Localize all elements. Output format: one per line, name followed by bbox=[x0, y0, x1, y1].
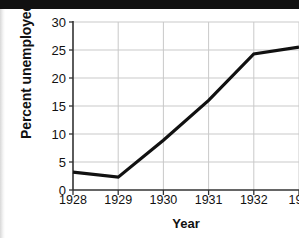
y-tick-label: 30 bbox=[38, 16, 66, 29]
x-tick-label: 193 bbox=[289, 193, 299, 207]
x-tick-label: 1931 bbox=[195, 193, 223, 207]
plot-area: 051015202530 19281929193019311932193 bbox=[0, 9, 299, 238]
y-tick-label: 20 bbox=[38, 72, 66, 85]
y-tick-label: 5 bbox=[38, 156, 66, 169]
y-tick-label: 10 bbox=[38, 128, 66, 141]
x-tick-label: 1928 bbox=[59, 193, 87, 207]
series-polyline bbox=[73, 47, 299, 177]
data-series-line bbox=[73, 47, 299, 177]
y-tick-label: 25 bbox=[38, 44, 66, 57]
scan-artifact-top-bar bbox=[0, 0, 299, 9]
x-tick-label: 1930 bbox=[149, 193, 177, 207]
figure-container: Percent unemployed 051015202530 19281929… bbox=[0, 0, 299, 238]
x-tick-label: 1932 bbox=[240, 193, 268, 207]
y-tick-label: 15 bbox=[38, 100, 66, 113]
tick-marks-group bbox=[69, 22, 299, 195]
x-axis-title: Year bbox=[73, 216, 299, 231]
x-tick-label: 1929 bbox=[104, 193, 132, 207]
line-chart: Percent unemployed 051015202530 19281929… bbox=[0, 9, 299, 238]
gridlines-group bbox=[73, 22, 299, 190]
